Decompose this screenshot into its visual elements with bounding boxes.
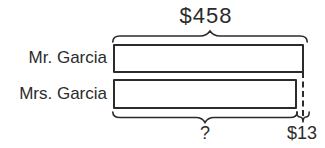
unknown-amount-label: ? [200,122,210,144]
total-amount-label: $458 [180,4,233,28]
difference-amount-label: $13 [287,122,317,144]
mr-garcia-bar [113,44,304,73]
tape-diagram: $458 Mr. Garcia Mrs. Garcia ? $13 [0,0,325,148]
difference-dashed-line [302,72,304,116]
mrs-garcia-bar [113,79,297,109]
row-label-mr-garcia: Mr. Garcia [0,48,107,68]
top-brace [112,30,308,43]
row-label-mrs-garcia: Mrs. Garcia [0,84,107,104]
